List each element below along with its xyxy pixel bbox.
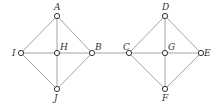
- graph-diagram: AHIBJCDGEF: [0, 0, 221, 107]
- edge-b-j: [57, 53, 92, 89]
- node-e: [198, 50, 203, 55]
- node-label-b: B: [94, 42, 102, 52]
- node-label-a: A: [53, 2, 61, 12]
- node-d: [162, 13, 167, 18]
- edge-i-j: [21, 53, 57, 89]
- node-j: [54, 86, 59, 91]
- edge-d-c: [129, 16, 165, 53]
- node-h: [54, 50, 59, 55]
- node-label-f: F: [161, 93, 169, 103]
- node-i: [18, 50, 23, 55]
- node-b: [89, 50, 94, 55]
- node-label-h: H: [59, 42, 68, 52]
- edge-c-f: [129, 53, 165, 89]
- node-g: [162, 50, 167, 55]
- node-a: [54, 13, 59, 18]
- edges-group: [21, 16, 201, 89]
- node-label-j: J: [52, 93, 59, 103]
- nodes-group: [18, 13, 203, 91]
- node-label-d: D: [161, 2, 169, 12]
- edge-e-f: [165, 53, 201, 89]
- node-label-i: I: [11, 48, 16, 58]
- node-f: [162, 86, 167, 91]
- edge-a-i: [21, 16, 57, 53]
- node-label-e: E: [203, 48, 211, 58]
- labels-group: AHIBJCDGEF: [11, 2, 211, 103]
- node-label-g: G: [168, 42, 175, 52]
- node-label-c: C: [123, 42, 130, 52]
